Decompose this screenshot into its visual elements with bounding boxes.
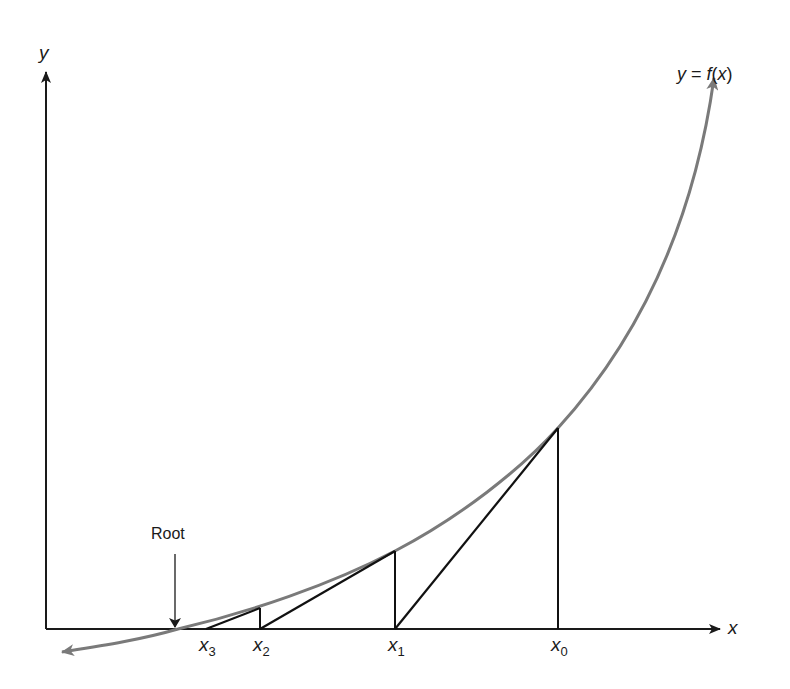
curve-label-lhs: y xyxy=(677,64,686,84)
function-curve xyxy=(178,78,714,629)
iterate-x2-name: x xyxy=(253,634,263,655)
curve-label-close: ) xyxy=(727,64,733,84)
iterate-x0-name: x xyxy=(551,634,561,655)
iterate-label-x0: x0 xyxy=(551,634,568,659)
iterate-x3-sub: 3 xyxy=(209,644,216,659)
iterate-x0-sub: 0 xyxy=(561,644,568,659)
diagram-canvas xyxy=(0,0,790,689)
curve-label: y = f(x) xyxy=(677,64,733,85)
iterate-label-x1: x1 xyxy=(388,634,405,659)
newton-method-diagram: y x y = f(x) Root x3 x2 x1 x0 xyxy=(0,0,790,689)
iterate-x3-name: x xyxy=(199,634,209,655)
y-axis-label: y xyxy=(39,42,49,64)
function-curve-left-tail xyxy=(62,629,178,652)
iterate-x1-sub: 1 xyxy=(398,644,405,659)
curve-label-x: x xyxy=(718,64,727,84)
root-label: Root xyxy=(151,525,185,543)
tangent-x1 xyxy=(260,551,395,629)
x-axis-label: x xyxy=(728,617,738,639)
tangent-x0 xyxy=(395,428,558,629)
iterate-label-x3: x3 xyxy=(199,634,216,659)
iterate-x2-sub: 2 xyxy=(263,644,270,659)
iterate-label-x2: x2 xyxy=(253,634,270,659)
curve-label-eq: = xyxy=(686,64,707,84)
iterate-x1-name: x xyxy=(388,634,398,655)
